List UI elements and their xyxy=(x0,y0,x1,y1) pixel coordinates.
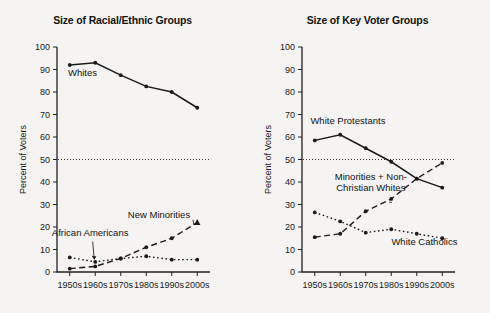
y-tick-label-10: 10 xyxy=(40,245,50,255)
y-tick-label-0: 0 xyxy=(290,267,295,277)
series-marker xyxy=(313,235,317,239)
series-marker xyxy=(389,197,393,201)
series-marker xyxy=(93,260,97,264)
series-marker xyxy=(170,236,174,240)
series-marker xyxy=(338,232,342,236)
series-marker xyxy=(170,258,174,262)
series-label-minorities-non-christian-whites: Minorities + Non-Christian Whites xyxy=(335,171,407,193)
series-marker xyxy=(170,90,174,94)
y-tick-label-100: 100 xyxy=(35,42,50,52)
series-marker xyxy=(364,209,368,213)
series-marker xyxy=(144,245,148,249)
x-tick-label-1960s: 1960s xyxy=(328,280,353,290)
y-tick-label-30: 30 xyxy=(40,200,50,210)
y-axis-title: Percent of Voters xyxy=(263,124,273,194)
x-tick-label-1970s: 1970s xyxy=(108,280,133,290)
series-marker xyxy=(144,84,148,88)
series-marker xyxy=(313,138,317,142)
series-marker xyxy=(338,133,342,137)
series-marker xyxy=(440,161,444,165)
y-tick-label-40: 40 xyxy=(285,177,295,187)
y-tick-label-40: 40 xyxy=(40,177,50,187)
y-tick-label-70: 70 xyxy=(285,110,295,120)
chart-panel-racial-ethnic-groups: Size of Racial/Ethnic Groups 01020304050… xyxy=(0,0,245,313)
y-tick-label-50: 50 xyxy=(40,155,50,165)
y-tick-label-20: 20 xyxy=(285,222,295,232)
y-tick-label-60: 60 xyxy=(285,132,295,142)
series-marker xyxy=(119,73,123,77)
series-marker xyxy=(364,146,368,150)
series-marker xyxy=(195,258,199,262)
series-marker xyxy=(68,255,72,259)
series-marker xyxy=(338,219,342,223)
y-tick-label-70: 70 xyxy=(40,110,50,120)
y-tick-label-30: 30 xyxy=(285,200,295,210)
series-marker xyxy=(389,227,393,231)
leader-arrow-icon xyxy=(92,256,97,260)
figure-container: Size of Racial/Ethnic Groups 01020304050… xyxy=(0,0,490,313)
series-marker xyxy=(313,210,317,214)
y-tick-label-90: 90 xyxy=(285,65,295,75)
x-tick-label-1980s: 1980s xyxy=(379,280,404,290)
series-label-new-minorities: New Minorities xyxy=(128,209,191,220)
x-tick-label-2000s: 2000s xyxy=(185,280,210,290)
x-tick-label-1950s: 1950s xyxy=(302,280,327,290)
series-marker xyxy=(68,267,72,271)
y-tick-label-80: 80 xyxy=(285,87,295,97)
y-tick-label-50: 50 xyxy=(285,155,295,165)
series-marker xyxy=(144,254,148,258)
series-marker xyxy=(364,231,368,235)
chart-panel-key-voter-groups: Size of Key Voter Groups 010203040506070… xyxy=(245,0,490,313)
y-tick-label-60: 60 xyxy=(40,132,50,142)
series-marker xyxy=(119,257,123,261)
series-marker xyxy=(195,106,199,110)
y-tick-label-10: 10 xyxy=(285,245,295,255)
x-tick-label-1970s: 1970s xyxy=(353,280,378,290)
y-axis-title: Percent of Voters xyxy=(18,124,28,194)
x-tick-label-1960s: 1960s xyxy=(83,280,108,290)
series-marker xyxy=(93,264,97,268)
x-tick-label-2000s: 2000s xyxy=(430,280,455,290)
series-marker xyxy=(415,177,419,181)
y-tick-label-80: 80 xyxy=(40,87,50,97)
y-tick-label-0: 0 xyxy=(45,267,50,277)
y-tick-label-100: 100 xyxy=(280,42,295,52)
series-marker xyxy=(440,186,444,190)
x-tick-label-1990s: 1990s xyxy=(159,280,184,290)
x-tick-label-1980s: 1980s xyxy=(134,280,159,290)
x-tick-label-1990s: 1990s xyxy=(404,280,429,290)
x-tick-label-1950s: 1950s xyxy=(57,280,82,290)
chart-svg-left: 01020304050607080901001950s1960s1970s198… xyxy=(0,0,245,313)
chart-svg-right: 01020304050607080901001950s1960s1970s198… xyxy=(245,0,490,313)
series-label-white-catholics: White Catholics xyxy=(391,236,457,247)
series-line-african-americans xyxy=(70,256,198,262)
series-label-african-americans: African Americans xyxy=(52,227,129,238)
series-label-whites: Whites xyxy=(68,67,97,78)
series-marker xyxy=(194,219,200,225)
series-marker xyxy=(389,160,393,164)
leader-line-new-minorities xyxy=(193,220,194,225)
y-tick-label-20: 20 xyxy=(40,222,50,232)
series-label-white-protestants: White Protestants xyxy=(310,115,385,126)
y-tick-label-90: 90 xyxy=(40,65,50,75)
series-marker xyxy=(93,61,97,65)
